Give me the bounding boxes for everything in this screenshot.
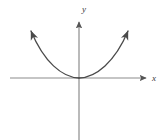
y-axis-label: y xyxy=(81,4,86,14)
parabola-curve-right xyxy=(79,31,128,78)
parabola-figure: y x xyxy=(0,0,166,140)
x-axis-label: x xyxy=(151,73,156,83)
parabola-curve-left xyxy=(31,31,79,78)
graph-canvas: y x xyxy=(0,0,166,140)
